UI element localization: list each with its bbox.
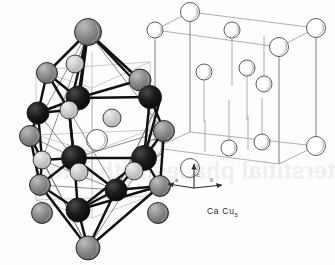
cell-circle-mid-center	[239, 60, 255, 76]
sphere-apex-bottom	[76, 236, 100, 260]
sphere-interstitial-upper-left	[60, 101, 78, 119]
cell-circle-top-inner	[270, 38, 289, 57]
unit-cell-edge	[155, 148, 279, 164]
sphere-interstitial-top	[66, 55, 84, 73]
axis-label-b: b	[210, 177, 213, 183]
sphere-mid-left	[20, 126, 41, 147]
sphere-hub-bottom-left	[66, 198, 90, 222]
cell-circle-bottom-right	[307, 137, 326, 156]
cell-circle-top-right	[307, 19, 326, 38]
sphere-upper-left	[37, 63, 58, 84]
sphere-lower-left	[30, 175, 51, 196]
cell-circle-top-back-left	[147, 22, 163, 38]
sphere-hub-upper-left	[27, 102, 49, 124]
formula-text: Ca Cu	[207, 206, 235, 216]
bond-thin	[88, 32, 164, 131]
cell-circle-mid-left	[196, 64, 212, 80]
cluster-open-atoms	[87, 130, 108, 151]
compound-formula-label: Ca Cu5	[207, 206, 239, 218]
structure-drawing	[0, 0, 335, 265]
sphere-interstitial-mid-right	[125, 162, 143, 180]
sphere-hub-bottom	[105, 179, 127, 201]
sphere-apex-top	[75, 19, 102, 46]
cell-circle-bottom-inner	[221, 140, 237, 156]
sphere-interstitial-mid-center	[70, 163, 88, 181]
cell-circle-top-front	[181, 3, 200, 22]
crystal-structure-figure: terstitial phases with inter	[0, 0, 335, 265]
sphere-hub-upper-right	[139, 86, 162, 109]
unit-cell-edge	[190, 12, 316, 28]
unit-cell-open-atoms	[147, 3, 326, 178]
open-circle-cluster-center	[87, 130, 108, 151]
sphere-mid-right	[154, 121, 175, 142]
sphere-bottom-right-edge	[148, 203, 169, 224]
formula-subscript: 5	[235, 211, 239, 218]
cell-circle-top-mid	[224, 22, 240, 38]
unit-cell-edge	[190, 132, 316, 146]
axis-arrow-a	[168, 184, 194, 188]
cell-circle-mid-right	[256, 76, 272, 92]
sphere-bottom-left-edge	[32, 203, 53, 224]
sphere-interstitial-upper-right	[103, 109, 121, 127]
cell-circle-bottom-mid	[254, 134, 270, 150]
axis-label-c: c	[197, 172, 200, 178]
unit-cell-edge	[155, 30, 279, 47]
sphere-lower-right	[150, 176, 171, 197]
sphere-interstitial-mid-left	[33, 151, 51, 169]
axis-arrow-b	[194, 185, 222, 188]
axis-label-a: a	[175, 177, 178, 183]
